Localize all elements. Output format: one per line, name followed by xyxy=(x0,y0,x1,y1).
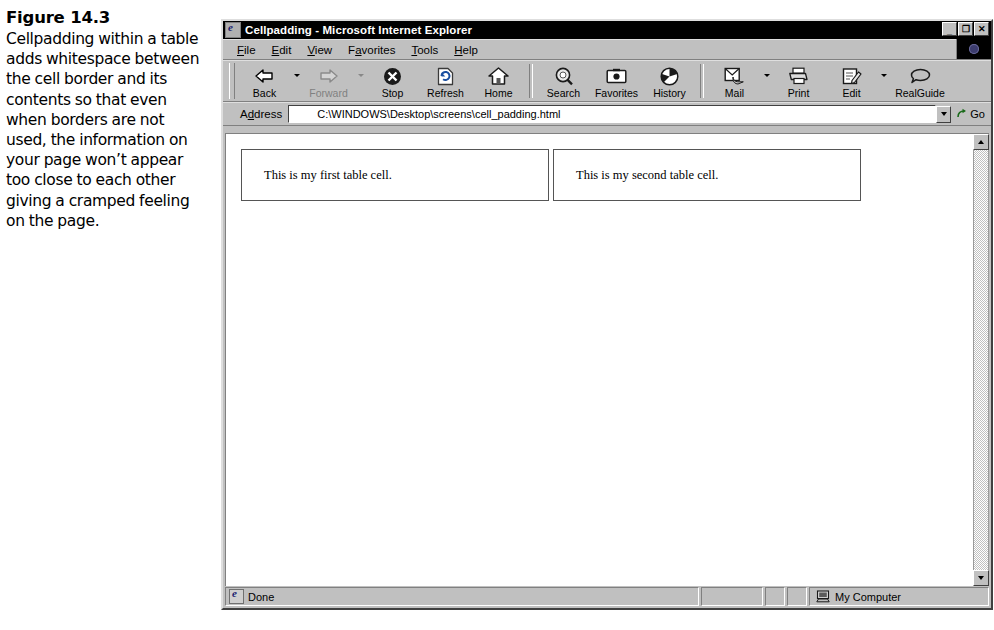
page-content-area: This is my first table cell. This is my … xyxy=(225,133,973,586)
toolbar-button-forward[interactable]: Forward xyxy=(302,61,355,101)
print-icon xyxy=(788,66,809,87)
restore-button[interactable]: ❐ xyxy=(958,22,973,36)
address-value: C:\WINDOWS\Desktop\screens\cell_padding.… xyxy=(289,108,560,120)
history-icon xyxy=(660,66,679,87)
forward-dropdown-arrow-icon[interactable] xyxy=(355,61,366,101)
close-button[interactable]: ✕ xyxy=(974,22,989,36)
menu-item-tools[interactable]: Tools xyxy=(403,43,446,57)
toolbar-label-refresh: Refresh xyxy=(427,87,464,99)
toolbar-button-favorites[interactable]: Favorites xyxy=(590,61,643,101)
edit-dropdown-arrow-icon[interactable] xyxy=(878,61,889,101)
toolbar-button-search[interactable]: Search xyxy=(537,61,590,101)
toolbar-label-print: Print xyxy=(788,87,810,99)
toolbar-label-mail: Mail xyxy=(725,87,744,99)
toolbar-button-home[interactable]: Home xyxy=(472,61,525,101)
home-icon xyxy=(488,66,509,87)
page-document-icon xyxy=(229,589,244,604)
window-controls: _ ❐ ✕ xyxy=(942,22,989,36)
toolbar-button-refresh[interactable]: Refresh xyxy=(419,61,472,101)
toolbar-label-search: Search xyxy=(547,87,580,99)
status-panel-blank-a xyxy=(701,587,763,606)
demo-table: This is my first table cell. This is my … xyxy=(237,149,865,201)
menu-label-help-rest: elp xyxy=(463,44,478,56)
scrollbar-track[interactable] xyxy=(973,150,989,570)
ie-document-icon xyxy=(225,22,241,38)
toolbar-button-mail[interactable]: Mail xyxy=(708,61,761,101)
window-title: Cellpadding - Microsoft Internet Explore… xyxy=(245,24,472,36)
toolbar-button-stop[interactable]: Stop xyxy=(366,61,419,101)
scroll-up-arrow-icon xyxy=(978,140,984,144)
menu-item-edit[interactable]: Edit xyxy=(264,43,300,57)
toolbar-label-forward: Forward xyxy=(309,87,348,99)
menubar-row: File Edit View Favorites Tools Help xyxy=(223,39,991,60)
menu-label-tools-rest: ools xyxy=(417,44,438,56)
scroll-down-arrow-icon xyxy=(978,576,984,580)
toolbar-button-history[interactable]: History xyxy=(643,61,696,101)
status-panel-blank-c xyxy=(787,587,807,606)
address-label: Address xyxy=(238,108,288,120)
ie-animated-logo xyxy=(956,39,991,59)
forward-arrow-icon xyxy=(318,66,339,87)
address-bar: Address C:\WINDOWS\Desktop\screens\cell_… xyxy=(223,102,991,126)
minimize-button[interactable]: _ xyxy=(942,22,957,36)
address-input[interactable]: C:\WINDOWS\Desktop\screens\cell_padding.… xyxy=(288,105,936,123)
menu-item-help[interactable]: Help xyxy=(446,43,486,57)
toolbar-button-back[interactable]: Back xyxy=(238,61,291,101)
mail-dropdown-arrow-icon[interactable] xyxy=(761,61,772,101)
toolbar-label-edit: Edit xyxy=(842,87,860,99)
security-zone-panel[interactable]: My Computer xyxy=(809,587,989,606)
address-dropdown-button[interactable] xyxy=(936,106,951,123)
scroll-up-button[interactable] xyxy=(973,134,989,150)
browser-toolbar: Back Forward Stop Refresh Home xyxy=(223,60,991,102)
toolbar-label-stop: Stop xyxy=(382,87,404,99)
figure-caption-text: Cellpadding within a table adds whitespa… xyxy=(6,29,206,231)
table-row: This is my first table cell. This is my … xyxy=(241,149,861,201)
menu-item-file[interactable]: File xyxy=(229,43,264,57)
realguide-icon xyxy=(910,66,931,87)
menu-label-file-rest: ile xyxy=(244,44,256,56)
window-titlebar[interactable]: Cellpadding - Microsoft Internet Explore… xyxy=(223,21,991,39)
figure-number: Figure 14.3 xyxy=(6,8,206,28)
menu-item-view[interactable]: View xyxy=(299,43,340,57)
chevron-down-icon xyxy=(941,112,947,116)
toolbar-label-back: Back xyxy=(253,87,276,99)
scroll-down-button[interactable] xyxy=(973,570,989,586)
menu-label-view-rest: iew xyxy=(315,44,332,56)
toolbar-label-home: Home xyxy=(484,87,512,99)
security-zone-text: My Computer xyxy=(835,591,901,603)
toolbar-button-print[interactable]: Print xyxy=(772,61,825,101)
toolbar-separator-1 xyxy=(529,64,533,98)
table-cell-second: This is my second table cell. xyxy=(553,149,861,201)
my-computer-icon xyxy=(816,590,830,603)
status-text: Done xyxy=(248,591,274,603)
go-button[interactable]: Go xyxy=(951,108,991,120)
minimize-icon: _ xyxy=(943,23,956,39)
internet-explorer-window: Cellpadding - Microsoft Internet Explore… xyxy=(221,19,993,610)
back-arrow-icon xyxy=(254,66,275,87)
go-label: Go xyxy=(970,108,985,120)
search-icon xyxy=(554,66,574,87)
edit-icon xyxy=(842,66,862,87)
figure-caption: Figure 14.3 Cellpadding within a table a… xyxy=(6,8,206,231)
menu-label-favorites-rest: vorites xyxy=(362,44,396,56)
refresh-icon xyxy=(437,66,454,87)
status-panel-blank-b xyxy=(765,587,785,606)
table-cell-first: This is my first table cell. xyxy=(241,149,549,201)
menu-item-favorites[interactable]: Favorites xyxy=(340,43,403,57)
browser-viewport-wrapper: This is my first table cell. This is my … xyxy=(225,133,989,586)
close-icon: ✕ xyxy=(975,23,988,35)
toolbar-label-realguide: RealGuide xyxy=(895,87,945,99)
status-bar: Done My Computer xyxy=(225,587,989,606)
go-arrow-icon xyxy=(956,108,968,120)
menubar: File Edit View Favorites Tools Help xyxy=(223,39,956,59)
stop-icon xyxy=(383,66,402,87)
back-dropdown-arrow-icon[interactable] xyxy=(291,61,302,101)
restore-icon: ❐ xyxy=(959,23,972,35)
toolbar-separator-2 xyxy=(700,64,704,98)
toolbar-button-realguide[interactable]: RealGuide xyxy=(889,61,951,101)
toolbar-button-edit[interactable]: Edit xyxy=(825,61,878,101)
vertical-scrollbar[interactable] xyxy=(973,133,989,586)
menu-label-edit-rest: dit xyxy=(279,44,291,56)
toolbar-label-history: History xyxy=(653,87,686,99)
toolbar-grip[interactable] xyxy=(229,63,235,99)
